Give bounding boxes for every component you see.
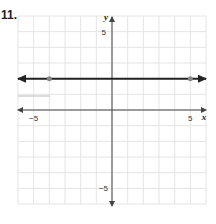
data-point: [188, 76, 193, 81]
coordinate-plane: yx−555−5: [0, 0, 216, 224]
y-tick-label-5: 5: [102, 28, 107, 37]
axis-labels: yx−555−5: [29, 12, 207, 193]
y-tick-label-neg5: −5: [99, 184, 109, 193]
x-axis-label: x: [201, 112, 207, 122]
x-tick-label-5: 5: [188, 114, 193, 123]
x-tick-label-neg5: −5: [29, 114, 39, 123]
y-axis-label: y: [103, 12, 109, 22]
axes: [18, 17, 206, 206]
data-point: [47, 76, 52, 81]
